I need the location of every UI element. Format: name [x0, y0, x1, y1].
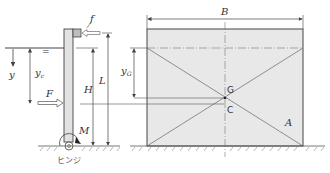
M-label: M [78, 125, 90, 136]
ground-left-hatch [40, 147, 120, 151]
yG-label: yG [120, 65, 132, 77]
y-label: y [8, 69, 15, 80]
yc-label: yc [34, 67, 45, 79]
top-block [73, 29, 81, 37]
H-label: H [83, 84, 93, 95]
ground-right-hatch [132, 147, 324, 151]
water-mark: = [42, 46, 50, 56]
f-label: f [89, 13, 96, 24]
gate-side-view: = y yc F f H L [5, 13, 120, 165]
plate-front-view: B yG G C A [80, 6, 325, 157]
gate-diagram: = y yc F f H L [0, 0, 330, 173]
centroid-G-point [224, 97, 227, 100]
F-label: F [45, 88, 54, 99]
C-label: C [227, 105, 233, 115]
G-label: G [227, 85, 234, 95]
gate-post [64, 29, 73, 142]
A-label: A [284, 117, 292, 128]
force-f-arrow [82, 30, 100, 37]
moment-arrowhead-icon [75, 137, 81, 144]
hinge-label: ヒンジ [57, 156, 81, 165]
force-F-arrow [38, 99, 63, 107]
B-label: B [220, 6, 228, 17]
L-label: L [98, 75, 106, 86]
